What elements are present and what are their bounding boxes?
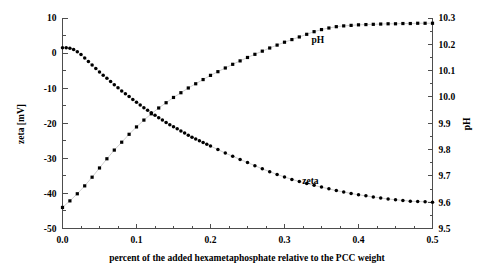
series-connector-zeta — [63, 48, 433, 202]
data-point-zeta — [68, 46, 72, 50]
data-point-zeta — [423, 200, 427, 204]
data-point-pH — [135, 125, 138, 128]
data-point-zeta — [94, 67, 98, 71]
y-left-tick-label: -40 — [44, 189, 57, 199]
x-tick-label: 0.3 — [279, 235, 291, 245]
data-point-pH — [150, 112, 153, 115]
data-point-zeta — [64, 46, 68, 50]
data-point-zeta — [190, 136, 194, 140]
data-point-pH — [268, 46, 271, 49]
data-point-pH — [342, 24, 345, 27]
data-point-pH — [172, 96, 175, 99]
y-left-tick-label: 0 — [52, 48, 57, 58]
data-point-zeta — [179, 129, 183, 133]
data-point-pH — [246, 56, 249, 59]
data-point-zeta — [349, 192, 353, 196]
data-point-zeta — [320, 185, 324, 189]
data-point-pH — [276, 44, 279, 47]
y-right-tick-label: 10.3 — [439, 13, 456, 23]
data-point-pH — [105, 157, 108, 160]
data-point-pH — [387, 22, 390, 25]
data-point-zeta — [76, 50, 80, 54]
data-point-zeta — [161, 118, 165, 122]
data-point-zeta — [135, 100, 139, 104]
data-point-pH — [335, 25, 338, 28]
data-point-pH — [128, 133, 131, 136]
data-point-zeta — [238, 158, 242, 162]
data-point-pH — [364, 23, 367, 26]
data-point-pH — [76, 192, 79, 195]
data-point-zeta — [231, 154, 235, 158]
data-point-zeta — [201, 141, 205, 145]
chart-canvas: 0.00.10.20.30.40.5-50-40-30-20-100109.59… — [0, 0, 490, 267]
data-point-zeta — [168, 123, 172, 127]
series-annotations-layer: pHzeta — [302, 35, 325, 186]
data-point-zeta — [61, 46, 65, 50]
data-point-zeta — [187, 133, 191, 137]
data-point-pH — [305, 33, 308, 36]
data-point-zeta — [261, 167, 265, 171]
data-point-pH — [409, 22, 412, 25]
data-point-pH — [165, 101, 168, 104]
data-point-zeta — [379, 196, 383, 200]
data-point-pH — [98, 166, 101, 169]
data-point-pH — [209, 74, 212, 77]
labels-layer: percent of the added hexametaphosphate r… — [16, 104, 472, 263]
data-point-pH — [253, 53, 256, 56]
data-point-zeta — [253, 164, 257, 168]
y-left-tick-label: -50 — [44, 224, 57, 234]
data-point-zeta — [183, 131, 187, 135]
y-right-tick-label: 9.7 — [439, 171, 451, 181]
data-point-zeta — [357, 193, 361, 197]
data-point-pH — [187, 86, 190, 89]
data-point-pH — [290, 38, 293, 41]
data-point-pH — [401, 22, 404, 25]
data-point-zeta — [172, 125, 176, 129]
x-axis-title: percent of the added hexametaphosphate r… — [109, 253, 385, 263]
data-point-pH — [283, 41, 286, 44]
y-axis-title-left: zeta [mV] — [16, 104, 26, 144]
data-point-pH — [320, 28, 323, 31]
data-point-pH — [313, 30, 316, 33]
data-point-zeta — [364, 194, 368, 198]
data-point-zeta — [290, 178, 294, 182]
data-point-pH — [372, 23, 375, 26]
data-point-zeta — [372, 195, 376, 199]
data-point-zeta — [72, 48, 76, 52]
data-point-pH — [431, 22, 434, 25]
data-point-zeta — [164, 121, 168, 125]
data-point-zeta — [224, 151, 228, 155]
data-point-zeta — [401, 199, 405, 203]
data-point-pH — [327, 26, 330, 29]
data-point-pH — [202, 78, 205, 81]
x-tick-label: 0.0 — [57, 235, 69, 245]
y-right-tick-label: 9.6 — [439, 198, 451, 208]
data-point-zeta — [327, 187, 331, 191]
data-point-zeta — [386, 197, 390, 201]
data-point-zeta — [109, 80, 113, 84]
y-left-tick-label: 10 — [47, 13, 57, 23]
data-point-zeta — [120, 89, 124, 93]
x-tick-label: 0.2 — [205, 235, 217, 245]
data-point-pH — [424, 22, 427, 25]
data-point-pH — [416, 22, 419, 25]
y-right-tick-label: 10.1 — [439, 66, 456, 76]
y-right-tick-label: 9.8 — [439, 145, 451, 155]
data-point-pH — [83, 184, 86, 187]
data-point-zeta — [409, 199, 413, 203]
data-point-zeta — [113, 83, 117, 87]
y-right-tick-label: 10.2 — [439, 40, 456, 50]
data-point-pH — [298, 35, 301, 38]
data-point-zeta — [105, 77, 109, 81]
data-point-zeta — [90, 63, 94, 67]
x-tick-label: 0.1 — [131, 235, 143, 245]
data-point-zeta — [153, 113, 157, 117]
data-point-zeta — [116, 86, 120, 90]
y-axis-title-right: pH — [462, 117, 472, 130]
y-right-tick-label: 10.0 — [439, 92, 456, 102]
data-point-pH — [120, 141, 123, 144]
series-annotation-pH: pH — [311, 35, 324, 45]
data-point-zeta — [138, 103, 142, 107]
data-point-zeta — [216, 148, 220, 152]
data-point-pH — [142, 118, 145, 121]
